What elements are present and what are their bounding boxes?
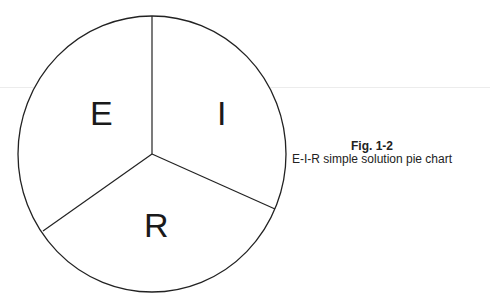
slice-label-i: I bbox=[217, 96, 226, 130]
slice-label-r: R bbox=[144, 208, 169, 242]
figure-description: E-I-R simple solution pie chart bbox=[282, 153, 462, 166]
slice-label-e: E bbox=[90, 96, 113, 130]
figure-caption: Fig. 1-2 E-I-R simple solution pie chart bbox=[282, 140, 462, 166]
